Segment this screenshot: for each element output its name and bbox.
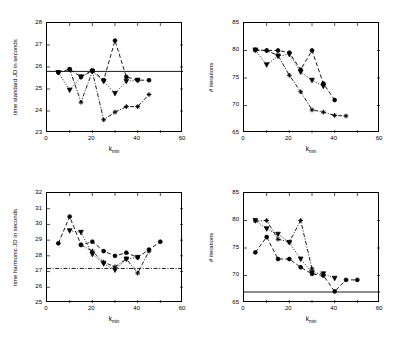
ytick-label: 75 xyxy=(219,74,239,80)
y-axis-label-bottom-left: time harmonic JD in seconds xyxy=(12,192,26,302)
ytick-label: 80 xyxy=(219,216,239,222)
plot-canvas-top-right xyxy=(244,23,380,133)
series-series-c-top-right xyxy=(253,48,348,119)
x-axis-label-subscript: min xyxy=(112,319,119,324)
tick-marks-bottom-right xyxy=(244,193,380,303)
y-axis-label-top-right: # iterations xyxy=(208,22,222,132)
ytick-label: 80 xyxy=(219,46,239,52)
xtick-label: 60 xyxy=(369,135,389,141)
xtick-label: 20 xyxy=(81,305,101,311)
series-series-c-bottom-right xyxy=(253,218,314,271)
xtick-label: 0 xyxy=(233,305,253,311)
ytick-label: 70 xyxy=(219,101,239,107)
xtick-label: 60 xyxy=(172,305,192,311)
figure-canvas: 2324252627280204060time standard JD in s… xyxy=(0,0,397,342)
ytick-label: 70 xyxy=(219,271,239,277)
xtick-label: 40 xyxy=(127,305,147,311)
x-axis-label-subscript: min xyxy=(112,149,119,154)
series-series-b-top-left xyxy=(56,69,140,96)
xtick-label: 0 xyxy=(36,305,56,311)
xtick-label: 40 xyxy=(324,305,344,311)
tick-marks-bottom-left xyxy=(47,193,183,303)
series-series-a-bottom-left xyxy=(56,215,162,260)
xtick-label: 40 xyxy=(324,135,344,141)
plot-canvas-bottom-left xyxy=(47,193,183,303)
series-series-a-top-left xyxy=(56,39,150,82)
plot-area-top-left xyxy=(46,22,182,132)
xtick-label: 20 xyxy=(278,305,298,311)
xtick-label: 0 xyxy=(36,135,56,141)
ytick-label: 65 xyxy=(219,129,239,135)
x-axis-label-subscript: min xyxy=(309,149,316,154)
series-series-b-bottom-right xyxy=(253,218,337,280)
x-axis-label-top-right: kmin xyxy=(289,145,333,152)
ytick-label: 85 xyxy=(219,19,239,25)
x-axis-label-bottom-right: kmin xyxy=(289,315,333,322)
ytick-label: 75 xyxy=(219,244,239,250)
series-series-b-top-right xyxy=(253,48,326,89)
plot-canvas-bottom-right xyxy=(244,193,380,303)
plot-area-bottom-right xyxy=(243,192,379,302)
xtick-label: 20 xyxy=(278,135,298,141)
ytick-label: 65 xyxy=(219,299,239,305)
x-axis-label-bottom-left: kmin xyxy=(92,315,136,322)
y-axis-label-top-left: time standard JD in seconds xyxy=(12,22,26,132)
xtick-label: 40 xyxy=(127,135,147,141)
plot-canvas-top-left xyxy=(47,23,183,133)
xtick-label: 0 xyxy=(233,135,253,141)
series-series-a-top-right xyxy=(253,48,336,102)
plot-area-bottom-left xyxy=(46,192,182,302)
xtick-label: 20 xyxy=(81,135,101,141)
ytick-label: 85 xyxy=(219,189,239,195)
plot-area-top-right xyxy=(243,22,379,132)
x-axis-label-top-left: kmin xyxy=(92,145,136,152)
x-axis-label-subscript: min xyxy=(309,319,316,324)
xtick-label: 60 xyxy=(369,305,389,311)
xtick-label: 60 xyxy=(172,135,192,141)
y-axis-label-bottom-right: # iterations xyxy=(208,192,222,302)
